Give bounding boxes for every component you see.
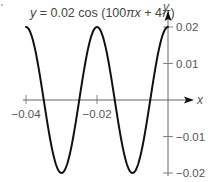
y-tick-label: 0.01 — [176, 58, 198, 70]
equation-part: ) — [170, 6, 174, 20]
x-axis-label: x — [196, 93, 204, 107]
y-tick-label: −0.02 — [176, 167, 205, 179]
y-axis-label: y — [162, 0, 170, 14]
axes — [23, 11, 194, 176]
cosine-chart: y = 0.02 cos (100πx + 4π) −0.04−0.020.02… — [0, 0, 208, 182]
equation-part: + 4 — [141, 6, 162, 20]
chart-title-equation: y = 0.02 cos (100πx + 4π) — [29, 6, 175, 20]
equation-part: = 0.02 cos (100 — [36, 6, 126, 20]
y-tick-label: 0.02 — [176, 21, 198, 33]
y-tick-label: −0.01 — [176, 131, 205, 143]
equation-part: πx — [126, 6, 141, 20]
x-tick-label: −0.02 — [82, 108, 111, 120]
x-tick-label: −0.04 — [11, 108, 41, 120]
cropped-figure-label-mark — [1, 4, 3, 6]
